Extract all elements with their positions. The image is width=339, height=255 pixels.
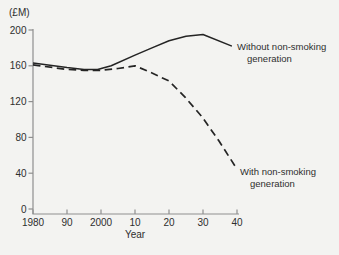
series-label-without-non-smoking: Without non-smoking generation (237, 41, 326, 65)
series-label-line: generation (240, 178, 316, 190)
series-label-line: With non-smoking (240, 166, 316, 178)
y-axis-unit-label: (£M) (9, 7, 30, 18)
axes-lines (33, 29, 239, 214)
x-tick-label: 20 (163, 217, 175, 228)
x-tick-label: 2000 (90, 217, 113, 228)
series-label-line: generation (237, 53, 326, 65)
y-tick-label: 160 (10, 60, 27, 71)
x-tick-label: 1980 (22, 217, 45, 228)
chart-canvas: 04080120160200198090200010203040 (0, 0, 339, 255)
series-line-without-non-smoking (33, 35, 232, 70)
x-tick-label: 30 (197, 217, 209, 228)
x-tick-label: 90 (61, 217, 73, 228)
series-label-line: Without non-smoking (237, 41, 326, 53)
series-line-with-non-smoking (33, 65, 235, 166)
line-chart-figure: 04080120160200198090200010203040 (£M) Ye… (0, 0, 339, 255)
x-tick-label: 10 (129, 217, 141, 228)
y-tick-label: 200 (10, 25, 27, 36)
y-tick-label: 80 (15, 132, 27, 143)
x-axis-title: Year (121, 229, 149, 240)
y-tick-label: 40 (15, 168, 27, 179)
x-tick-label: 40 (231, 217, 243, 228)
y-tick-label: 0 (21, 204, 27, 215)
series-label-with-non-smoking: With non-smoking generation (240, 166, 316, 190)
y-tick-label: 120 (10, 96, 27, 107)
